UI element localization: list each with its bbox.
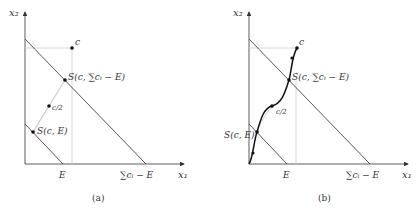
point-curve-upper: [290, 56, 293, 59]
caption-a: (a): [92, 193, 104, 203]
point-s-e: [255, 130, 259, 134]
x-axis-label: x₁: [178, 169, 188, 180]
tick-sum: ∑cᵢ − E: [346, 170, 380, 180]
label-s-sum: S(c, ∑cᵢ − E): [292, 72, 350, 82]
point-half: [270, 104, 274, 108]
x-axis-label: x₁: [402, 169, 412, 180]
label-half: c/2: [276, 108, 287, 116]
point-half: [47, 104, 51, 108]
panel-b: x₂ x₁ c S(c, ∑cᵢ − E) c/2 S(c, E) E ∑cᵢ …: [224, 7, 412, 203]
upper-budget-line: [25, 39, 146, 164]
label-s-sum: S(c, ∑cᵢ − E): [68, 72, 126, 82]
point-c: [70, 46, 74, 50]
tick-e: E: [58, 170, 66, 180]
label-half: c/2: [52, 104, 63, 112]
label-s-e: S(c, E): [224, 130, 255, 140]
point-s-sum: [63, 78, 67, 82]
point-s-sum: [287, 78, 291, 82]
panel-a: x₂ x₁ c S(c, ∑cᵢ − E) c/2 S(c, E) E ∑cᵢ …: [9, 7, 188, 203]
upper-budget-line: [249, 39, 370, 164]
label-s-e: S(c, E): [37, 126, 68, 136]
point-curve-lower: [251, 151, 254, 154]
diagram-canvas: x₂ x₁ c S(c, ∑cᵢ − E) c/2 S(c, E) E ∑cᵢ …: [0, 0, 417, 208]
label-c: c: [299, 37, 304, 47]
y-axis-label: x₂: [233, 7, 243, 18]
tick-sum: ∑cᵢ − E: [120, 170, 154, 180]
label-c: c: [75, 37, 80, 47]
tick-e: E: [282, 170, 290, 180]
caption-b: (b): [318, 193, 331, 203]
point-s-e: [31, 130, 35, 134]
y-axis-label: x₂: [9, 7, 19, 18]
